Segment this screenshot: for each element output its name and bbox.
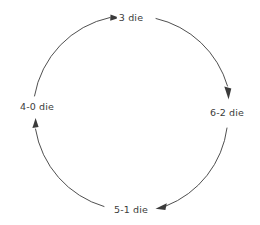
arc-top-to-right [156,19,228,87]
edge-left-to-top [35,15,120,96]
node-label-top: 3 die [117,12,145,24]
edge-right-to-bottom [156,128,228,210]
node-label-bottom: 5-1 die [112,204,150,216]
arc-left-to-top [35,18,111,97]
node-label-left: 4-0 die [18,101,56,113]
arrowhead-down-icon [224,86,231,99]
arc-right-to-bottom [166,128,227,206]
edge-top-to-right [156,19,231,100]
arrowhead-left-icon [156,203,167,210]
edge-bottom-to-left [32,118,104,207]
arrowhead-up-icon [32,118,38,128]
arc-bottom-to-left [36,129,105,207]
node-label-right: 6-2 die [208,107,246,119]
cycle-diagram: 3 die 6-2 die 5-1 die 4-0 die [0,0,260,225]
